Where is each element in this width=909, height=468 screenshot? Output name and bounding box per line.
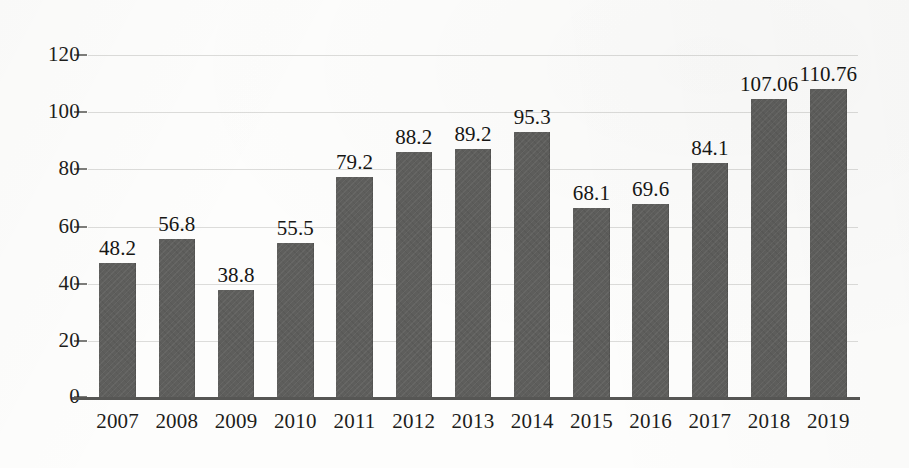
bar-value-label: 84.1 — [691, 138, 728, 159]
bar-chart-figure: 120 100 80 60 40 20 0 48.256.838.855.579… — [0, 0, 909, 468]
x-axis-tick-label: 2015 — [562, 408, 621, 434]
bar-value-label: 38.8 — [217, 265, 254, 286]
bar[interactable] — [573, 208, 609, 398]
y-axis-tick-label: 20 — [22, 330, 80, 351]
bar-value-label: 88.2 — [395, 127, 432, 148]
bar[interactable] — [751, 99, 787, 398]
y-axis-tick-label: 80 — [22, 158, 80, 179]
x-axis-tick-label: 2019 — [799, 408, 858, 434]
x-axis-tick-label: 2008 — [147, 408, 206, 434]
bar[interactable] — [159, 239, 195, 398]
y-axis-tick-label: 120 — [22, 44, 80, 65]
bar-group[interactable]: 56.8 — [159, 239, 195, 398]
bar-value-label: 79.2 — [336, 152, 373, 173]
bar[interactable] — [396, 152, 432, 398]
x-axis-tick-label: 2016 — [621, 408, 680, 434]
y-axis-tick-labels: 120 100 80 60 40 20 0 — [8, 0, 80, 468]
bar-group[interactable]: 95.3 — [514, 132, 550, 398]
bar-group[interactable]: 110.76 — [810, 89, 846, 398]
bar-group[interactable]: 84.1 — [692, 163, 728, 398]
bar-value-label: 68.1 — [573, 183, 610, 204]
bar-value-label: 56.8 — [158, 214, 195, 235]
bar[interactable] — [632, 204, 668, 398]
bar-value-label: 55.5 — [277, 218, 314, 239]
x-axis-tick-label: 2010 — [266, 408, 325, 434]
y-axis-tick-label: 60 — [22, 216, 80, 237]
bar[interactable] — [455, 149, 491, 398]
y-axis-tick-label: 100 — [22, 101, 80, 122]
x-axis-tick-labels: 2007200820092010201120122013201420152016… — [88, 408, 858, 448]
x-axis-tick-label: 2011 — [325, 408, 384, 434]
bar-value-label: 110.76 — [800, 64, 858, 85]
bar-value-label: 69.6 — [632, 179, 669, 200]
bar-group[interactable]: 89.2 — [455, 149, 491, 398]
x-axis-tick-label: 2012 — [384, 408, 443, 434]
x-axis-tick-label: 2009 — [206, 408, 265, 434]
bar[interactable] — [277, 243, 313, 398]
y-axis-tick-label: 40 — [22, 273, 80, 294]
bar-group[interactable]: 88.2 — [396, 152, 432, 398]
x-axis-tick-label: 2007 — [88, 408, 147, 434]
x-axis-tick-label: 2013 — [443, 408, 502, 434]
bar-value-label: 107.06 — [740, 74, 798, 95]
bar-group[interactable]: 38.8 — [218, 290, 254, 398]
bar-group[interactable]: 55.5 — [277, 243, 313, 398]
bar[interactable] — [514, 132, 550, 398]
bar[interactable] — [692, 163, 728, 398]
x-axis-tick-label: 2018 — [740, 408, 799, 434]
bar-group[interactable]: 79.2 — [336, 177, 372, 398]
bar[interactable] — [218, 290, 254, 398]
bar-group[interactable]: 68.1 — [573, 208, 609, 398]
x-axis-tick-label: 2014 — [503, 408, 562, 434]
x-axis-line — [72, 397, 860, 400]
bar-value-label: 89.2 — [454, 124, 491, 145]
x-axis-tick-label: 2017 — [680, 408, 739, 434]
bar[interactable] — [810, 89, 846, 398]
bar-value-label: 95.3 — [514, 107, 551, 128]
bar-group[interactable]: 69.6 — [632, 204, 668, 398]
bar[interactable] — [336, 177, 372, 398]
bar-group[interactable]: 48.2 — [99, 263, 135, 398]
bar-group[interactable]: 107.06 — [751, 99, 787, 398]
bar[interactable] — [99, 263, 135, 398]
bar-value-label: 48.2 — [99, 238, 136, 259]
